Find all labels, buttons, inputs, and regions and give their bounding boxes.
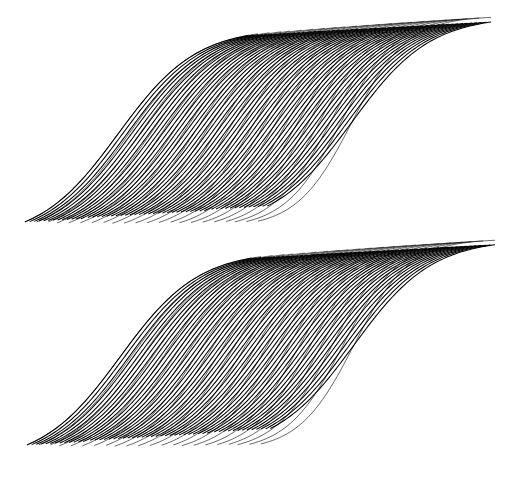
artboard	[0, 0, 513, 484]
op-art-canvas	[0, 0, 513, 484]
